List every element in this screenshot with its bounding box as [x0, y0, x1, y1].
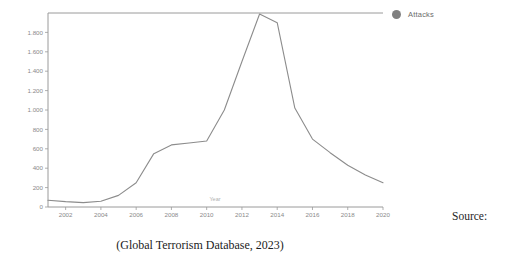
x-axis-tick-label: 2020 [376, 211, 390, 218]
x-axis-tick-label: 2010 [200, 211, 214, 218]
y-axis-tick-label: 200 [33, 184, 44, 191]
figure-caption: (Global Terrorism Database, 2023) [0, 238, 400, 253]
y-axis-tick-label: 1.000 [28, 106, 44, 113]
y-axis-tick-label: 0 [40, 203, 44, 210]
y-axis-tick-label: 800 [33, 126, 44, 133]
y-axis-tick-label: 600 [33, 145, 44, 152]
y-axis-tick-labels: 02004006008001.0001.2001.4001.6001.800 [28, 29, 44, 211]
x-axis-title: Year [209, 196, 220, 202]
chart-legend: Attacks [392, 10, 434, 19]
x-axis-tick-label: 2004 [94, 211, 108, 218]
x-axis-tick-label: 2016 [306, 211, 320, 218]
x-axis-tick-label: 2012 [235, 211, 249, 218]
x-axis-tick-label: 2014 [270, 211, 284, 218]
x-axis-tick-label: 2018 [341, 211, 355, 218]
x-axis-tick-labels: 2002200420062008201020122014201620182020 [59, 211, 391, 218]
y-axis-tick-label: 1.400 [28, 67, 44, 74]
y-axis-tick-label: 400 [33, 164, 44, 171]
line-chart-svg: 02004006008001.0001.2001.4001.6001.800 2… [0, 0, 400, 228]
y-axis-tick-label: 1.600 [28, 48, 44, 55]
legend-marker-icon [392, 10, 401, 19]
x-axis-tick-label: 2002 [59, 211, 73, 218]
y-axis-tick-label: 1.200 [28, 87, 44, 94]
figure-container: 02004006008001.0001.2001.4001.6001.800 2… [0, 0, 508, 268]
legend-item-label: Attacks [408, 10, 434, 19]
x-axis-tick-label: 2006 [129, 211, 143, 218]
x-axis-tick-label: 2008 [165, 211, 179, 218]
chart-plot-area: 02004006008001.0001.2001.4001.6001.800 2… [0, 0, 400, 228]
y-axis-tick-label: 1.800 [28, 29, 44, 36]
data-line-attacks [48, 14, 383, 203]
source-label: Source: [452, 210, 487, 222]
